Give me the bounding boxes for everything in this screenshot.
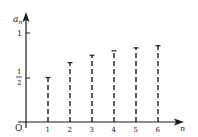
x-tick-label: 3	[90, 126, 94, 134]
y-tick-label-1: 1	[17, 29, 22, 38]
x-tick-label: 4	[112, 126, 117, 134]
x-tick-label: 1	[46, 126, 50, 134]
y-tick-label-half-den: 2	[17, 79, 21, 87]
x-tick-labels: 123456	[46, 126, 161, 134]
x-axis-label: n	[180, 124, 185, 133]
y-axis-label: an	[13, 14, 22, 25]
x-tick-label: 6	[156, 126, 161, 134]
origin-label: O	[15, 123, 22, 133]
sequence-chart: an 1 1 2 O n 123456	[0, 0, 198, 137]
x-tick-label: 5	[134, 126, 138, 134]
y-tick-label-half-num: 1	[17, 68, 21, 76]
x-tick-label: 2	[68, 126, 72, 134]
data-stems	[46, 46, 161, 122]
